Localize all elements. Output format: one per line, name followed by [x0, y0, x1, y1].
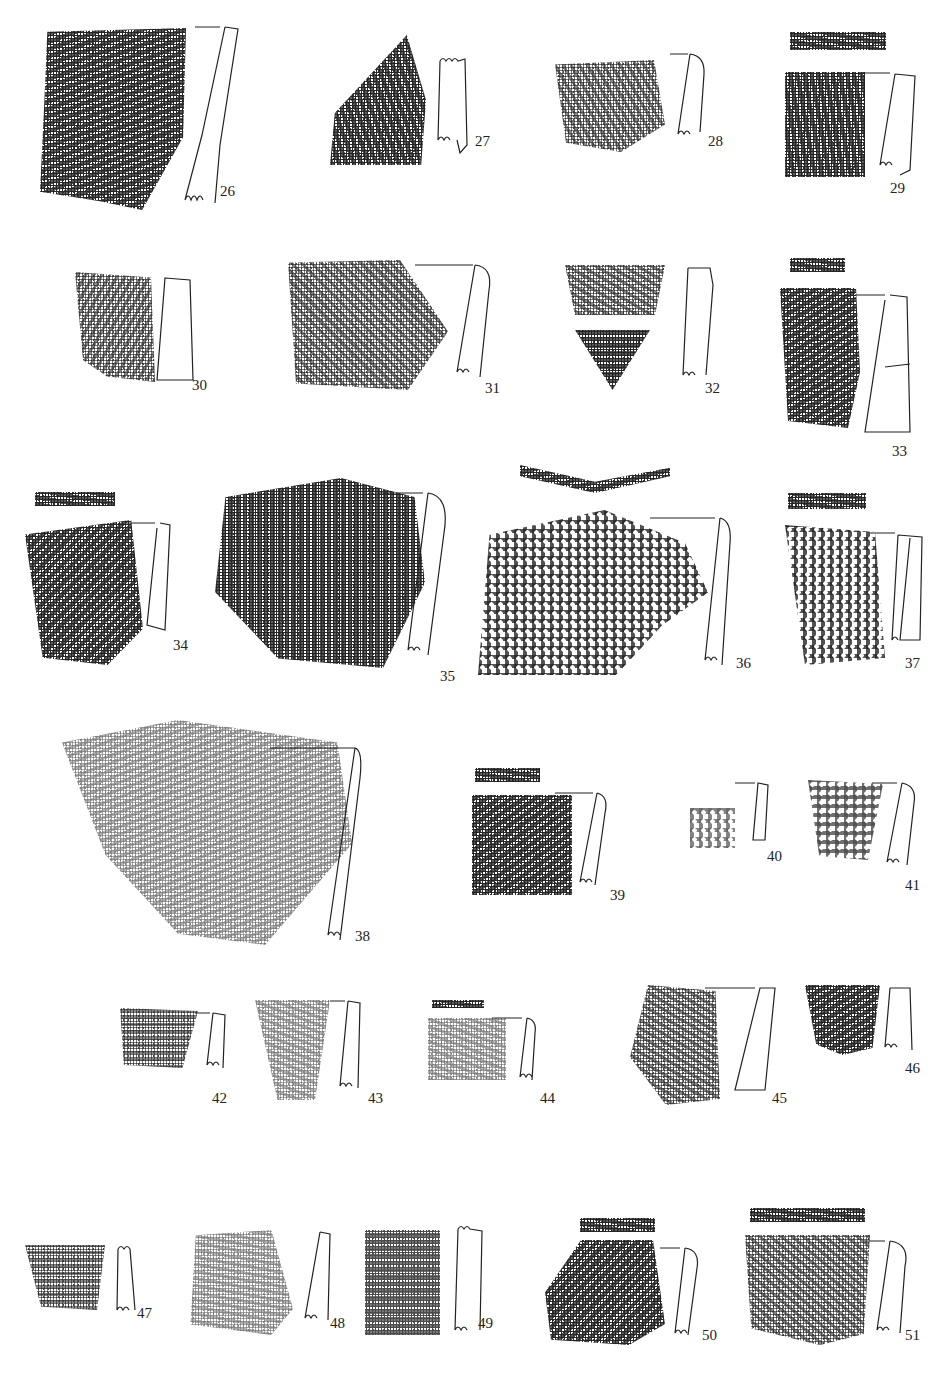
figure-number-45: 45	[772, 1090, 787, 1107]
sherd-profile-42	[195, 1010, 235, 1070]
sherd-rubbing-34-rim	[35, 492, 115, 506]
figure-number-40: 40	[767, 848, 782, 865]
sherd-rubbing-32	[565, 265, 665, 315]
sherd-profile-38	[270, 745, 365, 945]
figure-number-44: 44	[540, 1090, 555, 1107]
sherd-rubbing-30	[75, 272, 155, 382]
figure-number-42: 42	[212, 1090, 227, 1107]
figure-number-37: 37	[905, 655, 920, 672]
sherd-profile-51	[865, 1238, 915, 1338]
figure-number-33: 33	[892, 443, 907, 460]
figure-number-48: 48	[330, 1315, 345, 1332]
figure-number-50: 50	[702, 1327, 717, 1344]
sherd-rubbing-44-rim	[432, 1000, 484, 1008]
sherd-rubbing-40	[690, 808, 735, 848]
sherd-profile-32	[678, 265, 718, 380]
sherd-rubbing-33	[780, 288, 860, 428]
sherd-rubbing-32-lower	[575, 330, 650, 390]
sherd-profile-27	[435, 55, 470, 155]
sherd-profile-46	[880, 985, 920, 1055]
figure-number-26: 26	[220, 183, 235, 200]
sherd-profile-30	[155, 275, 195, 385]
sherd-rubbing-39-rim	[475, 768, 540, 782]
sherd-profile-48	[300, 1230, 335, 1325]
sherd-rubbing-48	[185, 1230, 293, 1335]
sherd-rubbing-46	[805, 985, 880, 1055]
sherd-profile-26	[180, 25, 240, 205]
sherd-rubbing-36-rim	[520, 465, 670, 493]
sherd-profile-36	[650, 515, 735, 670]
sherd-profile-35	[378, 490, 458, 660]
sherd-rubbing-29	[785, 72, 865, 177]
sherd-profile-39	[555, 790, 615, 890]
figure-number-32: 32	[705, 380, 720, 397]
figure-number-29: 29	[890, 180, 905, 197]
figure-number-41: 41	[905, 877, 920, 894]
sherd-profile-28	[670, 52, 710, 137]
sherd-rubbing-28	[555, 60, 665, 152]
figure-number-51: 51	[905, 1327, 920, 1344]
sherd-rubbing-29-rim	[790, 32, 886, 50]
figure-number-43: 43	[368, 1090, 383, 1107]
sherd-rubbing-27	[330, 35, 426, 165]
sherd-rubbing-47	[25, 1245, 105, 1310]
sherd-profile-43	[330, 998, 365, 1093]
figure-number-46: 46	[905, 1060, 920, 1077]
figure-number-30: 30	[192, 377, 207, 394]
figure-number-39: 39	[610, 887, 625, 904]
sherd-rubbing-51	[745, 1235, 870, 1345]
figure-number-36: 36	[736, 655, 751, 672]
sherd-profile-40	[735, 780, 775, 845]
sherd-profile-34	[125, 520, 190, 635]
plate-caption	[330, 1372, 620, 1381]
figure-number-27: 27	[475, 133, 490, 150]
sherd-rubbing-26	[40, 28, 186, 210]
sherd-rubbing-37-rim	[788, 493, 866, 509]
sherd-profile-50	[660, 1245, 705, 1340]
sherd-rubbing-42	[120, 1008, 198, 1068]
sherd-rubbing-50	[545, 1240, 665, 1345]
figure-number-28: 28	[708, 133, 723, 150]
sherd-profile-41	[872, 780, 927, 870]
figure-number-38: 38	[355, 928, 370, 945]
sherd-rubbing-50-rim	[580, 1218, 655, 1232]
sherd-profile-45	[705, 985, 780, 1095]
sherd-profile-44	[492, 1015, 547, 1085]
sherd-rubbing-43	[255, 1000, 330, 1100]
sherd-rubbing-49	[365, 1230, 440, 1335]
figure-number-31: 31	[485, 380, 500, 397]
figure-number-35: 35	[440, 668, 455, 685]
sherd-profile-31	[415, 262, 500, 382]
sherd-profile-29	[860, 70, 920, 180]
sherd-profile-37	[870, 530, 930, 645]
figure-number-47: 47	[137, 1305, 152, 1322]
sherd-profile-33	[855, 292, 915, 437]
sherd-rubbing-33-rim	[790, 258, 845, 272]
sherd-rubbing-51-rim	[750, 1208, 865, 1222]
figure-number-34: 34	[173, 637, 188, 654]
figure-number-49: 49	[478, 1315, 493, 1332]
pottery-sherd-plate: 26 27 28 29 30 31 32 33 34 35 36 37 38 3…	[0, 0, 946, 1381]
